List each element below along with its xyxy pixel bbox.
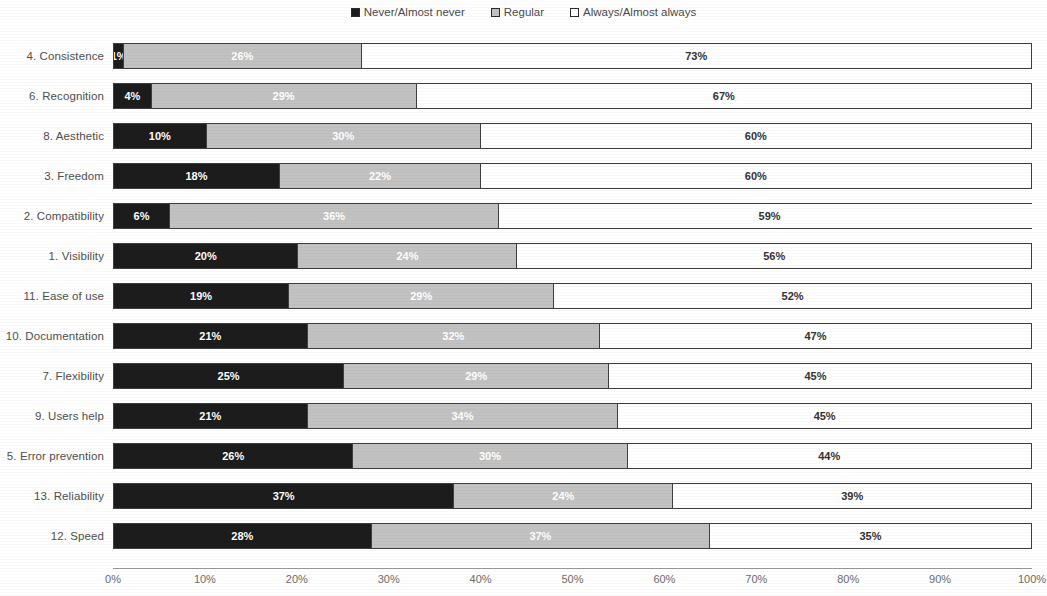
bar-segment-never[interactable]: 25% xyxy=(114,364,343,388)
stacked-bar[interactable]: 28%37%35% xyxy=(113,523,1032,549)
bar-segment-regular[interactable]: 22% xyxy=(279,164,481,188)
stacked-bar[interactable]: 26%30%44% xyxy=(113,443,1032,469)
bar-segment-regular[interactable]: 24% xyxy=(453,484,673,508)
x-axis-tick-label: 70% xyxy=(745,573,767,585)
bar-row: 2. Compatibility6%36%59% xyxy=(0,196,1047,236)
bar-segment-never[interactable]: 37% xyxy=(114,484,453,508)
bar-segment-regular[interactable]: 29% xyxy=(151,84,417,108)
bar-row: 9. Users help21%34%45% xyxy=(0,396,1047,436)
bar-segment-regular[interactable]: 37% xyxy=(371,524,710,548)
bar-row: 3. Freedom18%22%60% xyxy=(0,156,1047,196)
bar-segment-always[interactable]: 44% xyxy=(628,444,1031,468)
bar-segment-value-label: 6% xyxy=(134,211,150,222)
legend-item-regular[interactable]: Regular xyxy=(491,6,544,18)
bar-segment-never[interactable]: 28% xyxy=(114,524,371,548)
bar-segment-always[interactable]: 39% xyxy=(673,484,1031,508)
bar-row: 13. Reliability37%24%39% xyxy=(0,476,1047,516)
bar-segment-value-label: 39% xyxy=(841,491,863,502)
bar-segment-value-label: 29% xyxy=(465,371,487,382)
x-axis-tick-label: 0% xyxy=(105,573,121,585)
bar-segment-value-label: 21% xyxy=(199,331,221,342)
category-label: 11. Ease of use xyxy=(0,290,113,302)
bar-segment-value-label: 1% xyxy=(114,51,123,62)
bar-segment-regular[interactable]: 24% xyxy=(297,244,517,268)
bar-segment-regular[interactable]: 30% xyxy=(352,444,627,468)
bar-segment-value-label: 37% xyxy=(273,491,295,502)
bar-segment-never[interactable]: 4% xyxy=(114,84,151,108)
category-label: 1. Visibility xyxy=(0,250,113,262)
x-axis: 0%10%20%30%40%50%60%70%80%90%100% xyxy=(113,568,1032,592)
bar-segment-value-label: 29% xyxy=(410,291,432,302)
bar-segment-always[interactable]: 56% xyxy=(517,244,1031,268)
bar-segment-never[interactable]: 21% xyxy=(114,404,307,428)
bar-segment-never[interactable]: 19% xyxy=(114,284,288,308)
stacked-bar[interactable]: 6%36%59% xyxy=(113,203,1032,229)
bar-row: 11. Ease of use19%29%52% xyxy=(0,276,1047,316)
stacked-bar[interactable]: 19%29%52% xyxy=(113,283,1032,309)
bar-segment-value-label: 67% xyxy=(713,91,735,102)
bar-segment-never[interactable]: 20% xyxy=(114,244,297,268)
x-axis-tick-label: 80% xyxy=(837,573,859,585)
bar-segment-regular[interactable]: 29% xyxy=(343,364,609,388)
bar-segment-value-label: 30% xyxy=(479,451,501,462)
bar-segment-never[interactable]: 6% xyxy=(114,204,169,228)
bar-segment-always[interactable]: 60% xyxy=(481,164,1031,188)
bar-segment-always[interactable]: 73% xyxy=(362,44,1031,68)
stacked-bar[interactable]: 1%26%73% xyxy=(113,43,1032,69)
bar-segment-regular[interactable]: 32% xyxy=(307,324,600,348)
stacked-bar[interactable]: 21%32%47% xyxy=(113,323,1032,349)
bar-row: 10. Documentation21%32%47% xyxy=(0,316,1047,356)
bar-segment-never[interactable]: 18% xyxy=(114,164,279,188)
plot-area: 4. Consistence1%26%73%6. Recognition4%29… xyxy=(0,36,1047,568)
category-label: 7. Flexibility xyxy=(0,370,113,382)
x-axis-tick-label: 90% xyxy=(929,573,951,585)
bar-segment-never[interactable]: 26% xyxy=(114,444,352,468)
category-label: 3. Freedom xyxy=(0,170,113,182)
bar-segment-never[interactable]: 1% xyxy=(114,44,123,68)
bar-row: 4. Consistence1%26%73% xyxy=(0,36,1047,76)
stacked-bar[interactable]: 4%29%67% xyxy=(113,83,1032,109)
bar-row: 6. Recognition4%29%67% xyxy=(0,76,1047,116)
x-axis-tick-label: 60% xyxy=(653,573,675,585)
bar-segment-value-label: 29% xyxy=(273,91,295,102)
bar-segment-value-label: 59% xyxy=(759,211,781,222)
chart-legend: Never/Almost neverRegularAlways/Almost a… xyxy=(0,6,1047,18)
stacked-bar[interactable]: 20%24%56% xyxy=(113,243,1032,269)
stacked-bar[interactable]: 37%24%39% xyxy=(113,483,1032,509)
bar-segment-regular[interactable]: 36% xyxy=(169,204,499,228)
stacked-bar[interactable]: 21%34%45% xyxy=(113,403,1032,429)
bar-segment-always[interactable]: 47% xyxy=(600,324,1031,348)
bar-segment-regular[interactable]: 26% xyxy=(123,44,361,68)
bar-segment-always[interactable]: 52% xyxy=(554,284,1031,308)
bar-segment-value-label: 73% xyxy=(685,51,707,62)
bar-segment-never[interactable]: 10% xyxy=(114,124,206,148)
bar-segment-value-label: 44% xyxy=(818,451,840,462)
bar-segment-value-label: 60% xyxy=(745,131,767,142)
bar-segment-value-label: 4% xyxy=(124,91,140,102)
stacked-bar[interactable]: 25%29%45% xyxy=(113,363,1032,389)
category-label: 8. Aesthetic xyxy=(0,130,113,142)
legend-item-label: Always/Almost always xyxy=(583,6,696,18)
bar-segment-always[interactable]: 59% xyxy=(499,204,1040,228)
bar-segment-value-label: 24% xyxy=(396,251,418,262)
bar-segment-value-label: 35% xyxy=(859,531,881,542)
bar-segment-regular[interactable]: 34% xyxy=(307,404,619,428)
bar-segment-always[interactable]: 45% xyxy=(618,404,1031,428)
category-label: 10. Documentation xyxy=(0,330,113,342)
bar-segment-always[interactable]: 67% xyxy=(417,84,1031,108)
bar-segment-always[interactable]: 60% xyxy=(481,124,1031,148)
bar-segment-regular[interactable]: 29% xyxy=(288,284,554,308)
bar-segment-value-label: 52% xyxy=(782,291,804,302)
stacked-bar[interactable]: 10%30%60% xyxy=(113,123,1032,149)
legend-swatch-icon-regular xyxy=(491,8,500,17)
category-label: 5. Error prevention xyxy=(0,450,113,462)
bar-segment-regular[interactable]: 30% xyxy=(206,124,481,148)
bar-row: 1. Visibility20%24%56% xyxy=(0,236,1047,276)
bar-segment-never[interactable]: 21% xyxy=(114,324,307,348)
legend-item-never[interactable]: Never/Almost never xyxy=(351,6,465,18)
bar-segment-value-label: 32% xyxy=(442,331,464,342)
bar-segment-always[interactable]: 35% xyxy=(710,524,1031,548)
bar-segment-always[interactable]: 45% xyxy=(609,364,1022,388)
legend-item-always[interactable]: Always/Almost always xyxy=(570,6,696,18)
stacked-bar[interactable]: 18%22%60% xyxy=(113,163,1032,189)
